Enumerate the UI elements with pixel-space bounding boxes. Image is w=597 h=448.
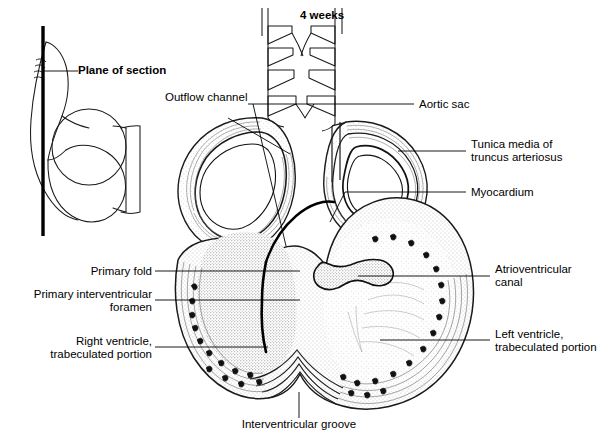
label-left-ventricle-line1: Left ventricle, [495, 328, 563, 341]
label-tunica-media-line1: Tunica media of [471, 138, 552, 151]
outflow-tract-left-limb [178, 118, 295, 252]
label-plane-of-section: Plane of section [78, 64, 166, 77]
label-av-canal-line1: Atrioventricular [495, 263, 572, 276]
label-outflow-channel: Outflow channel [165, 91, 247, 104]
label-aortic-sac: Aortic sac [419, 98, 470, 111]
label-primary-iv-foramen-line1: Primary interventricular [14, 288, 152, 301]
aortic-arches [262, 8, 342, 131]
label-myocardium: Myocardium [471, 186, 534, 199]
label-primary-iv-foramen-line2: foramen [14, 301, 152, 314]
label-tunica-media-line2: truncus arteriosus [471, 151, 562, 164]
label-primary-fold: Primary fold [20, 265, 152, 278]
label-stage-title: 4 weeks [300, 9, 344, 22]
label-interventricular-groove: Interventricular groove [204, 418, 394, 431]
label-av-canal-line2: canal [495, 276, 523, 289]
label-left-ventricle-line2: trabeculated portion [495, 341, 597, 354]
left-ventricle-cavity [323, 219, 460, 392]
label-right-ventricle-line2: trabeculated portion [16, 348, 152, 361]
label-right-ventricle-line1: Right ventricle, [16, 335, 152, 348]
